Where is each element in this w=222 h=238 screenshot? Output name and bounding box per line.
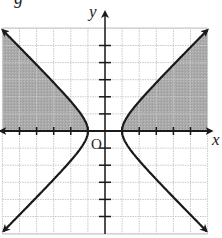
shade-left <box>1 28 88 131</box>
x-axis-label: x <box>211 130 220 149</box>
hyperbola-graph: g y x O <box>0 0 222 238</box>
partial-caption-text: g <box>14 0 23 8</box>
y-axis-label: y <box>87 2 97 21</box>
origin-label: O <box>91 136 102 152</box>
